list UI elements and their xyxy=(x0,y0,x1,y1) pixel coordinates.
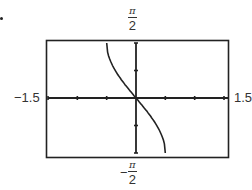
x-min-label: −1.5 xyxy=(14,90,40,105)
y-max-denominator: 2 xyxy=(128,18,137,32)
y-max-label: π 2 xyxy=(128,6,137,32)
y-min-label: − π 2 xyxy=(128,160,137,186)
y-min-denominator: 2 xyxy=(128,172,137,186)
y-min-sign: − xyxy=(120,166,128,179)
y-max-numerator: π xyxy=(128,6,137,18)
x-max-label: 1.5 xyxy=(234,90,252,105)
y-min-numerator: π xyxy=(128,160,137,172)
